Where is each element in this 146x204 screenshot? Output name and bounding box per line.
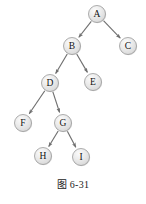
tree-edge-g-i <box>67 131 75 147</box>
node-circle <box>55 115 72 132</box>
node-circle <box>15 115 32 132</box>
node-circle <box>42 75 59 92</box>
tree-edge-g-h <box>49 131 58 147</box>
figure-caption: 图 6-31 <box>0 176 146 191</box>
node-circle <box>89 6 106 23</box>
tree-node-d[interactable]: D <box>42 75 60 93</box>
tree-node-a[interactable]: A <box>89 6 107 24</box>
tree-edge-b-e <box>77 54 88 72</box>
node-circle <box>73 149 90 166</box>
figure-container: ABCDEFGHI 图 6-31 <box>0 0 146 204</box>
tree-node-b[interactable]: B <box>64 38 82 56</box>
binary-tree-diagram: ABCDEFGHI <box>0 0 146 180</box>
tree-edge-b-d <box>56 54 68 73</box>
tree-node-i[interactable]: I <box>73 149 91 167</box>
tree-node-g[interactable]: G <box>55 115 73 133</box>
node-layer: ABCDEFGHI <box>15 6 138 167</box>
tree-node-f[interactable]: F <box>15 115 33 133</box>
tree-node-h[interactable]: H <box>35 148 53 166</box>
tree-node-e[interactable]: E <box>85 74 103 92</box>
node-circle <box>120 38 137 55</box>
node-circle <box>85 74 102 91</box>
tree-edge-d-g <box>53 92 60 113</box>
tree-edge-d-f <box>29 91 45 114</box>
tree-node-c[interactable]: C <box>120 38 138 56</box>
tree-edge-a-c <box>103 21 120 38</box>
node-circle <box>35 148 52 165</box>
node-circle <box>64 38 81 55</box>
tree-edge-a-b <box>79 21 91 37</box>
